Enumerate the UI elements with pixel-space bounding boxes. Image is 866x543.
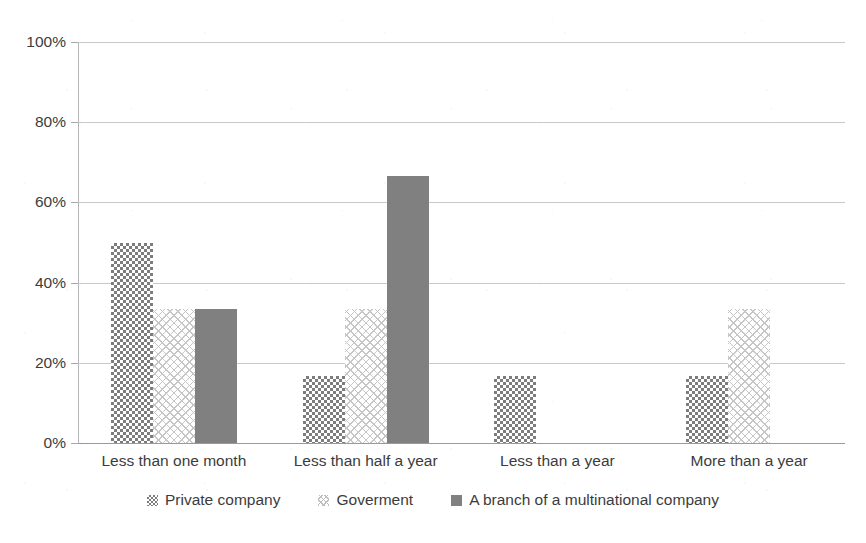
x-axis-category-label: Less than one month	[78, 452, 270, 471]
plot-area	[78, 42, 845, 443]
x-axis-category-label: More than a year	[653, 452, 845, 471]
legend-item-label: Private company	[165, 491, 280, 509]
y-axis-tick-mark	[71, 122, 78, 123]
bar	[494, 376, 536, 443]
dark-checkerboard-swatch	[147, 495, 158, 506]
bar-chart: 0%20%40%60%80%100% Less than one monthLe…	[0, 0, 866, 543]
light-crosshatch-swatch	[318, 495, 329, 506]
bar	[345, 309, 387, 443]
gridline	[78, 122, 845, 123]
bar	[303, 376, 345, 443]
legend-item-label: Goverment	[336, 491, 413, 509]
y-axis-tick-label: 80%	[4, 114, 66, 130]
legend-item-label: A branch of a multinational company	[469, 491, 719, 509]
bar	[387, 176, 429, 443]
y-axis-tick-label: 0%	[4, 435, 66, 451]
bar	[686, 376, 728, 443]
bar	[153, 309, 195, 443]
x-axis-category-labels: Less than one monthLess than half a year…	[78, 452, 845, 478]
y-axis-tick-label: 40%	[4, 275, 66, 291]
y-axis-tick-mark	[71, 202, 78, 203]
solid-gray-swatch	[451, 495, 462, 506]
gridline	[78, 42, 845, 43]
y-axis-tick-mark	[71, 363, 78, 364]
legend-item: Goverment	[318, 491, 413, 509]
chart-legend: Private companyGovermentA branch of a mu…	[0, 487, 866, 513]
y-axis-labels: 0%20%40%60%80%100%	[0, 0, 66, 543]
y-axis-tick-mark	[71, 42, 78, 43]
bar	[728, 309, 770, 443]
gridline	[78, 202, 845, 203]
legend-item: Private company	[147, 491, 280, 509]
axis-baseline	[78, 443, 845, 444]
x-axis-category-label: Less than a year	[462, 452, 654, 471]
bar	[111, 243, 153, 444]
y-axis-tick-label: 60%	[4, 195, 66, 211]
legend-item: A branch of a multinational company	[451, 491, 719, 509]
y-axis-tick-label: 20%	[4, 355, 66, 371]
y-axis-tick-mark	[71, 283, 78, 284]
gridline	[78, 283, 845, 284]
bar	[195, 309, 237, 443]
y-axis-tick-mark	[71, 443, 78, 444]
y-axis-tick-label: 100%	[4, 34, 66, 50]
x-axis-category-label: Less than half a year	[270, 452, 462, 471]
